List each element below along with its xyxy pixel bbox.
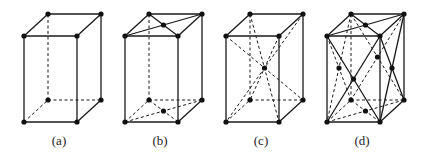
lattice-point [199,11,204,16]
bottom-face-center-point [363,108,368,113]
bottom-face-center-point [161,108,166,113]
lattice-point [74,119,79,124]
cell-edge [226,14,250,36]
lattice-point [146,11,151,16]
lattice-point [122,33,127,38]
lattice-point [324,33,329,38]
unit-cell-b [122,11,204,124]
lattice-point [401,97,406,102]
lattice-point [348,97,353,102]
lattice-point [223,119,228,124]
lattice-point [276,33,281,38]
right-face-center-point [389,65,394,70]
panel-label-d: (d) [354,133,369,148]
panel-label-c: (c) [254,133,268,148]
top-face-center-point [363,22,368,27]
unit-cell-d [324,11,406,124]
top-face-center-point [161,22,166,27]
front-face-center-point [351,76,356,81]
lattice-point [146,97,151,102]
panel-label-a: (a) [52,133,66,148]
lattice-point [377,33,382,38]
lattice-point [300,97,305,102]
lattice-point [247,11,252,16]
lattice-point [300,11,305,16]
lattice-point [324,119,329,124]
lattice-point [175,33,180,38]
lattice-point [348,11,353,16]
lattice-point [21,119,26,124]
lattice-point [276,119,281,124]
unit-cell-figure: (a)(b)(c)(d) [0,0,422,162]
unit-cell-a [21,11,103,124]
lattice-point [98,11,103,16]
lattice-point [175,119,180,124]
cell-edge [279,100,303,122]
cell-edge [24,14,48,36]
cell-edge [279,14,303,36]
lattice-point [199,97,204,102]
unit-cell-c [223,11,305,124]
left-face-center-point [336,65,341,70]
lattice-point [45,97,50,102]
lattice-point [45,11,50,16]
cell-edge [77,14,101,36]
hidden-edge [226,100,250,122]
lattice-point [247,97,252,102]
panel-label-b: (b) [152,133,167,148]
lattice-point [21,33,26,38]
cell-edge [77,100,101,122]
back-face-center-point [375,54,380,59]
lattice-point [223,33,228,38]
lattice-point [74,33,79,38]
lattice-point [377,119,382,124]
lattice-point [401,11,406,16]
body-center-point [262,65,267,70]
hidden-edge [24,100,48,122]
lattice-point [122,119,127,124]
lattice-point [98,97,103,102]
